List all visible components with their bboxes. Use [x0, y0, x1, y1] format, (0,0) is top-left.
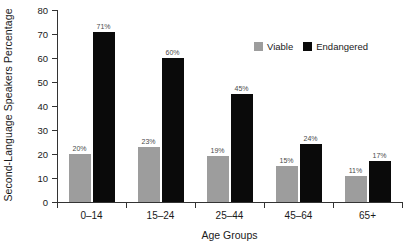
bar-value-label: 45% [234, 85, 248, 92]
bar-chart: Second-Language Speakers Percentage 20%7… [0, 0, 409, 247]
legend-item-endangered: Endangered [303, 41, 368, 52]
bar-endangered [162, 58, 184, 202]
x-tick [126, 202, 127, 208]
x-axis-title: Age Groups [57, 229, 402, 241]
bar-value-label: 60% [165, 49, 179, 56]
y-tick-label: 30 [0, 125, 48, 136]
legend-label-viable: Viable [267, 41, 293, 52]
y-tick-label: 80 [0, 5, 48, 16]
bar-value-label: 11% [349, 167, 363, 174]
bar-endangered [369, 161, 391, 202]
bar-value-label: 20% [72, 145, 86, 152]
x-tick-label: 45–64 [285, 210, 313, 221]
x-tick [402, 202, 403, 208]
bar-viable [69, 154, 91, 202]
chart-legend: Viable Endangered [254, 41, 368, 52]
y-tick [52, 154, 57, 155]
y-tick [52, 34, 57, 35]
bar-value-label: 19% [210, 147, 224, 154]
x-tick-label: 25–44 [216, 210, 244, 221]
bar-endangered [231, 94, 253, 202]
x-tick [195, 202, 196, 208]
y-tick [52, 58, 57, 59]
y-tick-label: 70 [0, 29, 48, 40]
y-tick [52, 10, 57, 11]
legend-swatch-endangered-icon [303, 42, 312, 51]
y-tick [52, 130, 57, 131]
y-tick [52, 106, 57, 107]
y-tick-label: 50 [0, 77, 48, 88]
x-tick [264, 202, 265, 208]
bar-value-label: 17% [372, 152, 386, 159]
bar-viable [276, 166, 298, 202]
bar-value-label: 71% [96, 23, 110, 30]
bar-viable [345, 176, 367, 202]
bar-endangered [300, 144, 322, 202]
y-tick-label: 10 [0, 173, 48, 184]
bar-viable [207, 156, 229, 202]
x-tick-label: 15–24 [147, 210, 175, 221]
y-tick-label: 20 [0, 149, 48, 160]
y-tick-label: 60 [0, 53, 48, 64]
bar-viable [138, 147, 160, 202]
y-tick [52, 82, 57, 83]
y-tick [52, 202, 57, 203]
legend-label-endangered: Endangered [316, 41, 368, 52]
bar-value-label: 24% [303, 135, 317, 142]
x-tick [57, 202, 58, 208]
legend-swatch-viable-icon [254, 42, 263, 51]
bar-value-label: 15% [279, 157, 293, 164]
x-tick-label: 0–14 [80, 210, 102, 221]
y-tick-label: 0 [0, 197, 48, 208]
plot-area: 20%71%23%60%19%45%15%24%11%17% [57, 10, 402, 202]
bar-endangered [93, 32, 115, 202]
x-tick [333, 202, 334, 208]
x-axis [57, 202, 402, 203]
y-tick-label: 40 [0, 101, 48, 112]
bar-value-label: 23% [141, 138, 155, 145]
x-tick-label: 65+ [359, 210, 376, 221]
y-tick [52, 178, 57, 179]
legend-item-viable: Viable [254, 41, 293, 52]
